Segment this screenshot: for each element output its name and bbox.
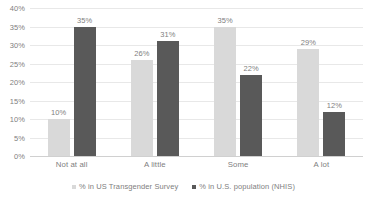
plot-area: 10%35%26%31%35%22%29%12% [30, 8, 363, 156]
bar-group: 10%35% [30, 8, 113, 156]
bar-value-label: 22% [243, 64, 258, 73]
chart-legend: % in US Transgender Survey% in U.S. popu… [0, 182, 367, 191]
y-axis-tick-label: 40% [10, 4, 25, 13]
bar [157, 41, 179, 156]
bar-group: 35%22% [197, 8, 280, 156]
bar [214, 27, 236, 157]
bar-value-label: 26% [134, 49, 149, 58]
bar-value-label: 31% [160, 30, 175, 39]
legend-item[interactable]: % in U.S. population (NHIS) [192, 182, 295, 191]
y-axis-tick-label: 10% [10, 115, 25, 124]
bar [240, 75, 262, 156]
bar [131, 60, 153, 156]
y-axis-tick-label: 20% [10, 78, 25, 87]
bar-value-label: 35% [217, 16, 232, 25]
bar-group: 29%12% [280, 8, 363, 156]
x-axis-category-label: A lot [314, 160, 330, 170]
bar-value-label: 10% [51, 108, 66, 117]
bar-value-label: 29% [301, 38, 316, 47]
legend-swatch-icon [192, 185, 196, 189]
bar [323, 112, 345, 156]
y-axis-tick-label: 15% [10, 96, 25, 105]
y-axis-tick-label: 0% [14, 152, 25, 161]
legend-label: % in US Transgender Survey [79, 182, 178, 191]
y-axis-tick-label: 25% [10, 59, 25, 68]
bar-value-label: 35% [77, 16, 92, 25]
bar [48, 119, 70, 156]
bar [74, 27, 96, 157]
y-axis-tick-label: 30% [10, 41, 25, 50]
bar [297, 49, 319, 156]
legend-label: % in U.S. population (NHIS) [199, 182, 295, 191]
y-axis-tick-label: 35% [10, 22, 25, 31]
y-axis-tick-label: 5% [14, 133, 25, 142]
y-axis: 0%5%10%15%20%25%30%35%40% [0, 8, 28, 156]
bar-value-label: 12% [327, 101, 342, 110]
legend-item[interactable]: % in US Transgender Survey [72, 182, 178, 191]
bar-group: 26%31% [113, 8, 196, 156]
grouped-bar-chart: 0%5%10%15%20%25%30%35%40% 10%35%26%31%35… [0, 0, 367, 202]
gridline [30, 156, 363, 157]
x-axis-category-label: A little [144, 160, 166, 170]
x-axis-category-label: Some [228, 160, 249, 170]
x-axis-category-label: Not at all [56, 160, 88, 170]
x-axis: Not at allA littleSomeA lot [30, 160, 363, 174]
legend-swatch-icon [72, 185, 76, 189]
